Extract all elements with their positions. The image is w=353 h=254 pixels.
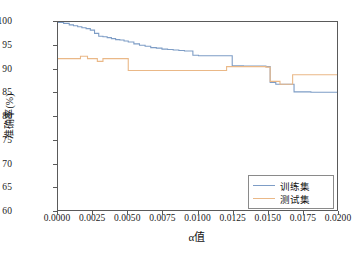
x-tick-mark xyxy=(162,211,163,215)
legend-label-test: 测试集 xyxy=(280,192,310,206)
y-tick-label: 100 xyxy=(0,16,12,26)
legend-swatch-training xyxy=(253,185,275,186)
y-tick-label: 90 xyxy=(2,64,12,74)
series-line-test xyxy=(58,56,338,96)
legend-swatch-test xyxy=(253,198,275,199)
x-tick-mark xyxy=(233,211,234,215)
series-line-training xyxy=(58,22,338,92)
y-tick-label: 65 xyxy=(2,182,12,192)
x-tick-mark xyxy=(268,211,269,215)
x-tick-mark xyxy=(338,211,339,215)
x-tick-mark xyxy=(57,211,58,215)
y-axis-title: 准确率(%) xyxy=(1,94,16,139)
x-tick-mark xyxy=(127,211,128,215)
x-axis-title: α值 xyxy=(189,228,206,244)
legend-item-test[interactable]: 测试集 xyxy=(253,192,329,205)
legend-item-training[interactable]: 训练集 xyxy=(253,179,329,192)
legend-label-training: 训练集 xyxy=(280,179,310,193)
x-tick-mark xyxy=(303,211,304,215)
y-tick-label: 60 xyxy=(2,206,12,216)
x-tick-mark xyxy=(92,211,93,215)
y-tick-label: 95 xyxy=(2,40,12,50)
chart-legend[interactable]: 训练集 测试集 xyxy=(248,175,334,209)
y-tick-label: 70 xyxy=(2,159,12,169)
x-tick-mark xyxy=(198,211,199,215)
chart-figure: 6065707580859095100 0.00000.00250.00500.… xyxy=(0,0,353,254)
